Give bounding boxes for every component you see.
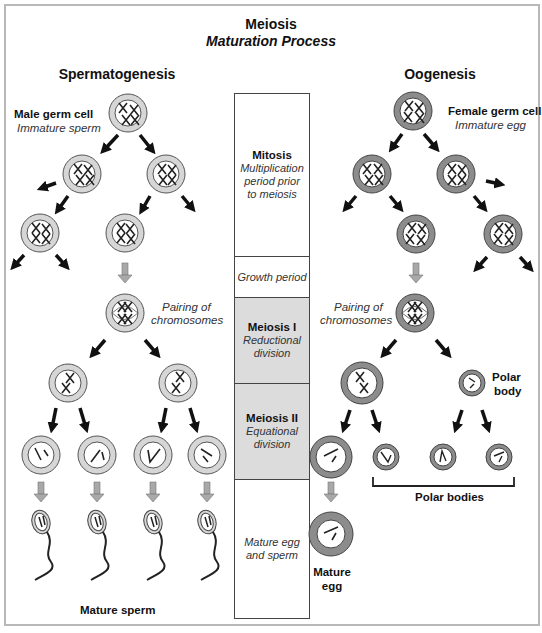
mature-egg-label-2: egg — [313, 579, 351, 593]
female-germ-cell-label: Female germ cell — [448, 104, 541, 118]
polar-bodies — [373, 444, 512, 470]
mature-egg-label-1: Mature — [313, 565, 351, 579]
male-germ-cell-sublabel: Immature sperm — [17, 121, 101, 135]
male-germ-cell-label: Male germ cell — [14, 107, 93, 121]
first-polar-body — [459, 370, 485, 396]
polar-bodies-bracket — [373, 477, 514, 486]
mature-egg — [309, 512, 353, 556]
egg-pairing-label-1: Pairing of — [334, 300, 383, 314]
polar-body-label-1: Polar — [492, 370, 521, 384]
female-germ-cell-sublabel: Immature egg — [455, 118, 526, 132]
mature-sperm-label: Mature sperm — [80, 603, 155, 617]
sperm-pairing-label-1: Pairing of — [162, 300, 211, 314]
secondary-oocyte — [341, 362, 383, 404]
sperm-pairing-label-2: chromosomes — [151, 313, 223, 327]
diagram-artwork — [0, 0, 542, 633]
mature-sperm-cells — [29, 508, 219, 580]
spermatids — [22, 436, 226, 474]
ootid — [310, 436, 352, 478]
polar-bodies-label: Polar bodies — [415, 490, 484, 504]
polar-body-label-2: body — [494, 384, 521, 398]
egg-pairing-label-2: chromosomes — [320, 313, 392, 327]
sperm-germ-cell — [109, 94, 147, 132]
